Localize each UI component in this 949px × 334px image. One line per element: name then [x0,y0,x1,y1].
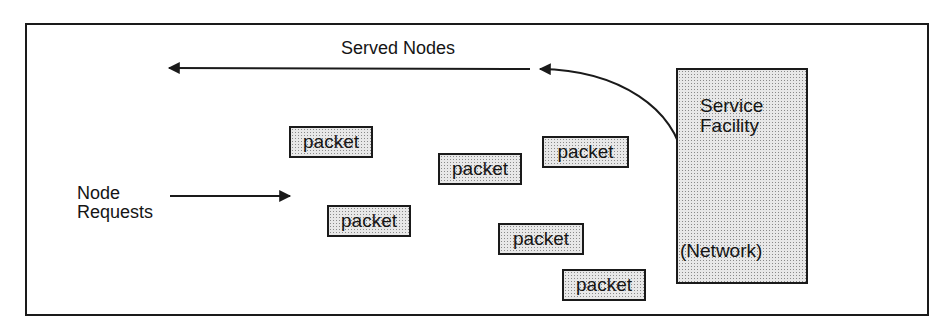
facility-title-line2: Facility [700,116,763,136]
served-nodes-arrow [169,68,530,69]
served-nodes-label: Served Nodes [341,38,455,58]
packet-box: packet [542,136,629,168]
facility-subtitle: (Network) [680,240,762,262]
service-facility-box: Service Facility (Network) [676,68,808,284]
facility-title: Service Facility [700,96,763,136]
packet-box: packet [289,126,373,158]
packet-box: packet [327,205,411,237]
packet-box: packet [498,223,584,255]
facility-title-line1: Service [700,96,763,116]
node-requests-label-line2: Requests [77,202,153,222]
node-requests-label-line1: Node [77,183,120,203]
packet-box: packet [438,153,522,185]
packet-box: packet [562,269,646,301]
